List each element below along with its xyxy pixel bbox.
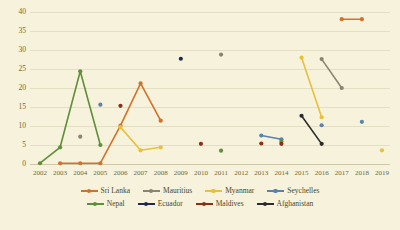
x-tick-label-2018: 2018 (355, 167, 369, 179)
y-tick-label-0: 0 (4, 160, 26, 168)
data-point-seychelles-2013 (259, 133, 263, 137)
data-point-nepal-2003 (58, 145, 62, 149)
data-point-maldives-2013 (259, 141, 263, 145)
legend-row: NepalEcuadorMaldivesAfghanistan (0, 197, 400, 210)
legend-item-ecuador[interactable]: Ecuador (138, 200, 183, 208)
plot-area (30, 12, 390, 164)
data-point-mauritius-2016 (320, 57, 324, 61)
data-point-sri-lanka-2018 (360, 17, 364, 21)
gridline-0 (30, 164, 390, 165)
data-point-sri-lanka-2008 (159, 119, 163, 123)
data-point-sri-lanka-2005 (98, 161, 102, 165)
data-point-sri-lanka-2017 (340, 17, 344, 21)
y-tick-label-5: 5 (4, 141, 26, 149)
x-tick-label-2019: 2019 (375, 167, 389, 179)
legend-swatch-icon (87, 200, 104, 207)
y-tick-label-40: 40 (4, 8, 26, 16)
data-point-myanmar-2008 (159, 145, 163, 149)
data-point-sri-lanka-2007 (138, 81, 142, 85)
x-tick-label-2017: 2017 (335, 167, 349, 179)
x-tick-label-2013: 2013 (254, 167, 268, 179)
legend-swatch-icon (81, 187, 98, 194)
series-line-myanmar (302, 58, 322, 118)
y-tick-label-30: 30 (4, 46, 26, 54)
x-tick-label-2005: 2005 (93, 167, 107, 179)
data-point-afghanistan-2015 (299, 114, 303, 118)
y-tick-label-10: 10 (4, 122, 26, 130)
x-tick-label-2004: 2004 (73, 167, 87, 179)
data-point-afghanistan-2016 (320, 142, 324, 146)
y-tick-label-15: 15 (4, 103, 26, 111)
legend-item-mauritius[interactable]: Mauritius (143, 187, 192, 195)
x-tick-label-2014: 2014 (274, 167, 288, 179)
series-line-afghanistan (302, 116, 322, 144)
legend-swatch-icon (196, 200, 213, 207)
x-tick-label-2003: 2003 (53, 167, 67, 179)
data-point-nepal-2011 (219, 149, 223, 153)
x-tick-label-2015: 2015 (295, 167, 309, 179)
x-tick-label-2012: 2012 (234, 167, 248, 179)
y-tick-label-20: 20 (4, 84, 26, 92)
data-point-nepal-2004 (78, 69, 82, 73)
chart-legend: Sri LankaMauritiusMyanmarSeychelles Nepa… (0, 184, 400, 210)
series-line-myanmar (120, 127, 160, 150)
data-point-myanmar-2006 (118, 125, 122, 129)
data-point-maldives-2010 (199, 142, 203, 146)
x-tick-label-2009: 2009 (174, 167, 188, 179)
legend-label: Maldives (216, 200, 244, 208)
series-line-mauritius (322, 59, 342, 88)
legend-swatch-icon (267, 187, 284, 194)
data-point-mauritius-2004 (78, 135, 82, 139)
x-tick-label-2010: 2010 (194, 167, 208, 179)
legend-swatch-icon (205, 187, 222, 194)
series-line-seychelles (261, 136, 281, 140)
legend-label: Ecuador (158, 200, 183, 208)
legend-label: Afghanistan (277, 200, 314, 208)
x-tick-label-2008: 2008 (154, 167, 168, 179)
legend-item-nepal[interactable]: Nepal (87, 200, 125, 208)
legend-label: Seychelles (287, 187, 319, 195)
series-layer (30, 12, 390, 164)
data-point-mauritius-2017 (340, 86, 344, 90)
data-point-ecuador-2009 (179, 57, 183, 61)
data-point-maldives-2014 (279, 142, 283, 146)
legend-item-myanmar[interactable]: Myanmar (205, 187, 254, 195)
legend-label: Mauritius (163, 187, 192, 195)
series-line-nepal (40, 71, 100, 163)
chart-container: 0510152025303540 20022003200420052006200… (0, 0, 400, 230)
y-tick-label-35: 35 (4, 27, 26, 35)
data-point-sri-lanka-2003 (58, 161, 62, 165)
x-tick-label-2007: 2007 (134, 167, 148, 179)
data-point-seychelles-2018 (360, 120, 364, 124)
legend-swatch-icon (143, 187, 160, 194)
legend-item-maldives[interactable]: Maldives (196, 200, 244, 208)
x-tick-label-2011: 2011 (214, 167, 228, 179)
legend-item-afghanistan[interactable]: Afghanistan (257, 200, 314, 208)
data-point-nepal-2005 (98, 143, 102, 147)
legend-row: Sri LankaMauritiusMyanmarSeychelles (0, 184, 400, 197)
data-point-seychelles-2016 (320, 123, 324, 127)
y-axis-labels: 0510152025303540 (0, 12, 26, 164)
x-tick-label-2016: 2016 (315, 167, 329, 179)
data-point-myanmar-2019 (380, 148, 384, 152)
legend-label: Nepal (107, 200, 125, 208)
x-tick-label-2006: 2006 (113, 167, 127, 179)
legend-label: Myanmar (225, 187, 254, 195)
legend-item-sri-lanka[interactable]: Sri Lanka (81, 187, 130, 195)
legend-swatch-icon (138, 200, 155, 207)
legend-swatch-icon (257, 200, 274, 207)
y-tick-label-25: 25 (4, 65, 26, 73)
data-point-nepal-2002 (38, 161, 42, 165)
legend-label: Sri Lanka (101, 187, 130, 195)
data-point-myanmar-2007 (138, 148, 142, 152)
data-point-sri-lanka-2004 (78, 161, 82, 165)
legend-item-seychelles[interactable]: Seychelles (267, 187, 319, 195)
data-point-myanmar-2016 (320, 115, 324, 119)
series-line-sri-lanka (60, 83, 161, 163)
data-point-maldives-2006 (118, 104, 122, 108)
data-point-mauritius-2011 (219, 52, 223, 56)
data-point-myanmar-2015 (299, 56, 303, 60)
x-tick-label-2002: 2002 (33, 167, 47, 179)
x-axis-labels: 2002200320042005200620072008200920102011… (30, 167, 390, 179)
data-point-seychelles-2005 (98, 103, 102, 107)
